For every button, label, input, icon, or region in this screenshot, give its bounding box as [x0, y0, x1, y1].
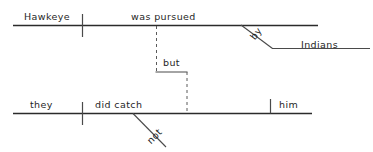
word-direct-object: him [279, 100, 298, 110]
word-verb-bottom: did catch [95, 100, 142, 110]
word-conjunction: but [163, 58, 180, 68]
sentence-diagram: Hawkeye was pursued by Indians but they … [0, 0, 373, 152]
diagram-lines-canvas [0, 0, 373, 152]
word-subject-top: Hawkeye [24, 12, 70, 22]
word-subject-bottom: they [30, 100, 53, 110]
word-preposition-object: Indians [301, 40, 338, 50]
word-verb-top: was pursued [131, 12, 196, 22]
